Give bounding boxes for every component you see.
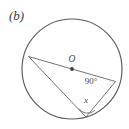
part-label: (b) xyxy=(9,8,24,23)
chord-left-segment xyxy=(29,57,87,118)
chord-right-segment xyxy=(86,82,116,118)
unknown-angle-label: x xyxy=(83,95,88,105)
geometry-diagram: (b) O 90° x xyxy=(0,0,129,129)
geometry-figure: (b) O 90° x xyxy=(0,0,129,129)
center-point-dot xyxy=(70,67,74,71)
right-angle-label: 90° xyxy=(85,76,98,86)
center-label: O xyxy=(69,54,76,64)
